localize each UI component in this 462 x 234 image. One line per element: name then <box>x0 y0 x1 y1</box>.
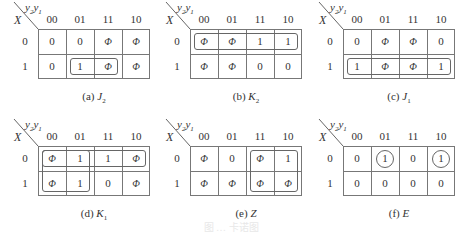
kmap-cell: 0 <box>94 171 122 196</box>
column-header: 11 <box>94 130 122 142</box>
kmap-corner: y2y1X <box>305 0 345 30</box>
kmap-corner: y2y1X <box>0 117 40 147</box>
implicant-group-outline <box>70 58 118 75</box>
kmap-grid: 00ΦΦ01ΦΦ <box>38 29 150 79</box>
kmap-cell: 0 <box>399 146 427 171</box>
kmap-cell: 0 <box>343 171 371 196</box>
column-header: 00 <box>190 130 218 142</box>
kmap-cell: 0 <box>246 54 274 79</box>
row-header: 1 <box>18 177 32 189</box>
row-header: 0 <box>170 152 184 164</box>
row-header: 1 <box>170 177 184 189</box>
kmap-grid: Φ11ΦΦ10Φ <box>38 146 150 196</box>
column-header: 00 <box>38 13 66 25</box>
column-header: 01 <box>218 13 246 25</box>
row-header: 1 <box>323 60 337 72</box>
kmap-cell: Φ <box>122 54 150 79</box>
panel-caption: (b) K2 <box>190 90 302 105</box>
kmap-cell: 0 <box>38 29 66 54</box>
implicant-group-outline <box>42 150 90 192</box>
kmap-cell: 0 <box>274 54 302 79</box>
column-header: 01 <box>66 13 94 25</box>
kmap-grid: 01010000 <box>343 146 455 196</box>
kmap-panel-a: y2y1X000111100100ΦΦ01ΦΦ(a) J2 <box>0 0 150 110</box>
kmap-cell: 0 <box>38 54 66 79</box>
row-header: 1 <box>323 177 337 189</box>
row-header: 1 <box>170 60 184 72</box>
kmap-cell: Φ <box>218 54 246 79</box>
implicant-group-outline <box>194 33 298 50</box>
kmap-cell: 0 <box>343 146 371 171</box>
kmap-corner: y2y1X <box>0 0 40 30</box>
minterm-circle-icon <box>376 150 394 168</box>
column-header: 11 <box>399 130 427 142</box>
kmap-cell: Φ <box>190 54 218 79</box>
kmap-panel-f: y2y1X000111100101010000(f) E <box>305 117 455 227</box>
column-header: 11 <box>399 13 427 25</box>
panel-caption: (a) J2 <box>38 90 150 105</box>
kmap-grid: ΦΦ11ΦΦ00 <box>190 29 302 79</box>
row-header: 0 <box>170 35 184 47</box>
minterm-circle-icon <box>432 150 450 168</box>
row-header: 0 <box>323 35 337 47</box>
kmap-cell: 0 <box>66 29 94 54</box>
row-variable-label: X <box>166 13 173 28</box>
row-variable-label: X <box>14 13 21 28</box>
kmap-cell: Φ <box>190 146 218 171</box>
row-header: 1 <box>18 60 32 72</box>
kmap-cell: 0 <box>399 171 427 196</box>
kmap-grid: 0ΦΦ01ΦΦ1 <box>343 29 455 79</box>
kmap-corner: y2y1X <box>152 117 192 147</box>
kmap-cell: 0 <box>427 171 455 196</box>
column-header: 10 <box>427 130 455 142</box>
kmap-cell: Φ <box>94 29 122 54</box>
kmap-cell: 0 <box>218 146 246 171</box>
kmap-grid: Φ0Φ1ΦΦΦΦ <box>190 146 302 196</box>
column-header: 01 <box>371 13 399 25</box>
implicant-group-outline <box>347 58 451 75</box>
figure-caption: 图 … 卡诺图 <box>0 219 462 234</box>
row-variable-label: X <box>166 130 173 145</box>
column-header: 00 <box>38 130 66 142</box>
column-header: 01 <box>218 130 246 142</box>
kmap-cell: 0 <box>427 29 455 54</box>
kmap-cell: Φ <box>399 29 427 54</box>
row-header: 0 <box>18 152 32 164</box>
column-header: 00 <box>190 13 218 25</box>
kmap-cell: 0 <box>371 171 399 196</box>
kmap-cell: Φ <box>122 29 150 54</box>
kmap-cell: Φ <box>218 171 246 196</box>
kmap-cell: Φ <box>190 171 218 196</box>
row-header: 0 <box>18 35 32 47</box>
column-header: 10 <box>122 130 150 142</box>
kmap-cell: 0 <box>343 29 371 54</box>
column-header: 00 <box>343 13 371 25</box>
column-header: 01 <box>66 130 94 142</box>
kmap-corner: y2y1X <box>152 0 192 30</box>
column-header: 10 <box>274 130 302 142</box>
kmap-panel-e: y2y1X0001111001Φ0Φ1ΦΦΦΦ(e) Z <box>152 117 302 227</box>
column-header: 11 <box>246 13 274 25</box>
row-variable-label: X <box>319 130 326 145</box>
column-header: 10 <box>274 13 302 25</box>
row-variable-label: X <box>319 13 326 28</box>
panel-caption: (c) J1 <box>343 90 455 105</box>
kmap-cell: Φ <box>371 29 399 54</box>
kmap-panel-c: y2y1X00011110010ΦΦ01ΦΦ1(c) J1 <box>305 0 455 110</box>
kmap-corner: y2y1X <box>305 117 345 147</box>
row-variable-label: X <box>14 130 21 145</box>
column-header: 01 <box>371 130 399 142</box>
implicant-group-outline <box>250 150 298 192</box>
kmap-panel-d: y2y1X0001111001Φ11ΦΦ10Φ(d) K1 <box>0 117 150 227</box>
column-header: 00 <box>343 130 371 142</box>
column-header: 11 <box>94 13 122 25</box>
kmap-cell: Φ <box>122 171 150 196</box>
column-header: 11 <box>246 130 274 142</box>
column-header: 10 <box>427 13 455 25</box>
column-header: 10 <box>122 13 150 25</box>
row-header: 0 <box>323 152 337 164</box>
kmap-panel-b: y2y1X0001111001ΦΦ11ΦΦ00(b) K2 <box>152 0 302 110</box>
